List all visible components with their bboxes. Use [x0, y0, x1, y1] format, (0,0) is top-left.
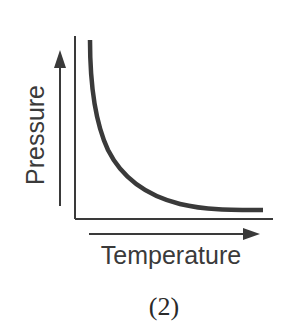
x-axis-label: Temperature: [101, 241, 241, 270]
pressure-arrow-icon: [54, 50, 66, 206]
figure-caption: (2): [149, 292, 179, 322]
pressure-temperature-figure: Pressure Temperature (2): [0, 0, 283, 335]
temperature-arrow-icon: [89, 228, 260, 240]
pressure-curve: [90, 40, 263, 210]
y-axis-label: Pressure: [21, 85, 50, 185]
